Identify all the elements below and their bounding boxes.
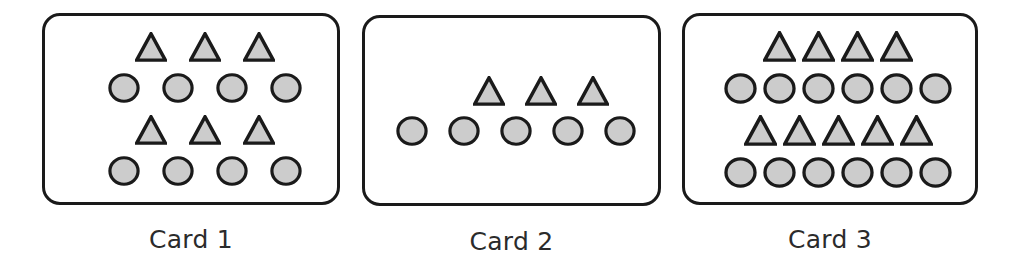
cards-figure: Card 1 Card 2 Card 3 <box>0 0 1016 271</box>
shape-row-triangle <box>463 71 619 111</box>
circle-shape <box>802 73 835 104</box>
card-3-rows <box>721 25 955 193</box>
circle-shape <box>841 73 874 104</box>
circle-shape <box>270 73 302 103</box>
triangle-shape <box>189 115 221 145</box>
triangle-shape <box>135 115 167 145</box>
circle-shape <box>604 116 636 146</box>
card-3[interactable] <box>682 13 978 205</box>
triangle-shape <box>473 76 505 106</box>
circle-shape <box>162 73 194 103</box>
circle-shape <box>763 73 796 104</box>
circle-shape <box>724 157 757 188</box>
circle-shape <box>763 157 796 188</box>
shape-row-circle <box>721 67 955 109</box>
card-2-label: Card 2 <box>469 229 553 254</box>
circle-shape <box>724 73 757 104</box>
shape-row-triangle <box>760 25 916 67</box>
card-1-slot: Card 1 <box>42 0 340 271</box>
shape-row-circle <box>721 151 955 193</box>
card-1[interactable] <box>42 13 340 205</box>
triangle-shape <box>880 31 913 62</box>
triangle-shape <box>577 76 609 106</box>
circle-shape <box>270 156 302 186</box>
triangle-shape <box>802 31 835 62</box>
shape-row-triangle <box>741 109 936 151</box>
circle-shape <box>880 157 913 188</box>
card-2-rows <box>386 71 646 151</box>
triangle-shape <box>783 115 816 146</box>
card-2-slot: Card 2 <box>362 0 661 271</box>
circle-shape <box>841 157 874 188</box>
circle-shape <box>216 156 248 186</box>
shape-row-triangle <box>124 109 286 151</box>
triangle-shape <box>135 32 167 62</box>
circle-shape <box>500 116 532 146</box>
card-3-label: Card 3 <box>788 227 872 252</box>
shape-row-circle <box>97 150 313 192</box>
triangle-shape <box>861 115 894 146</box>
shape-row-circle <box>386 111 646 151</box>
triangle-shape <box>841 31 874 62</box>
circle-shape <box>552 116 584 146</box>
card-1-label: Card 1 <box>149 227 233 252</box>
shape-row-circle <box>97 67 313 109</box>
triangle-shape <box>525 76 557 106</box>
triangle-shape <box>900 115 933 146</box>
triangle-shape <box>744 115 777 146</box>
circle-shape <box>108 156 140 186</box>
circle-shape <box>162 156 194 186</box>
circle-shape <box>108 73 140 103</box>
triangle-shape <box>822 115 855 146</box>
circle-shape <box>448 116 480 146</box>
card-1-rows <box>97 26 313 192</box>
card-2[interactable] <box>362 15 661 206</box>
triangle-shape <box>763 31 796 62</box>
circle-shape <box>396 116 428 146</box>
circle-shape <box>880 73 913 104</box>
circle-shape <box>919 157 952 188</box>
triangle-shape <box>243 115 275 145</box>
circle-shape <box>216 73 248 103</box>
circle-shape <box>919 73 952 104</box>
circle-shape <box>802 157 835 188</box>
card-3-slot: Card 3 <box>682 0 978 271</box>
triangle-shape <box>189 32 221 62</box>
shape-row-triangle <box>124 26 286 68</box>
triangle-shape <box>243 32 275 62</box>
